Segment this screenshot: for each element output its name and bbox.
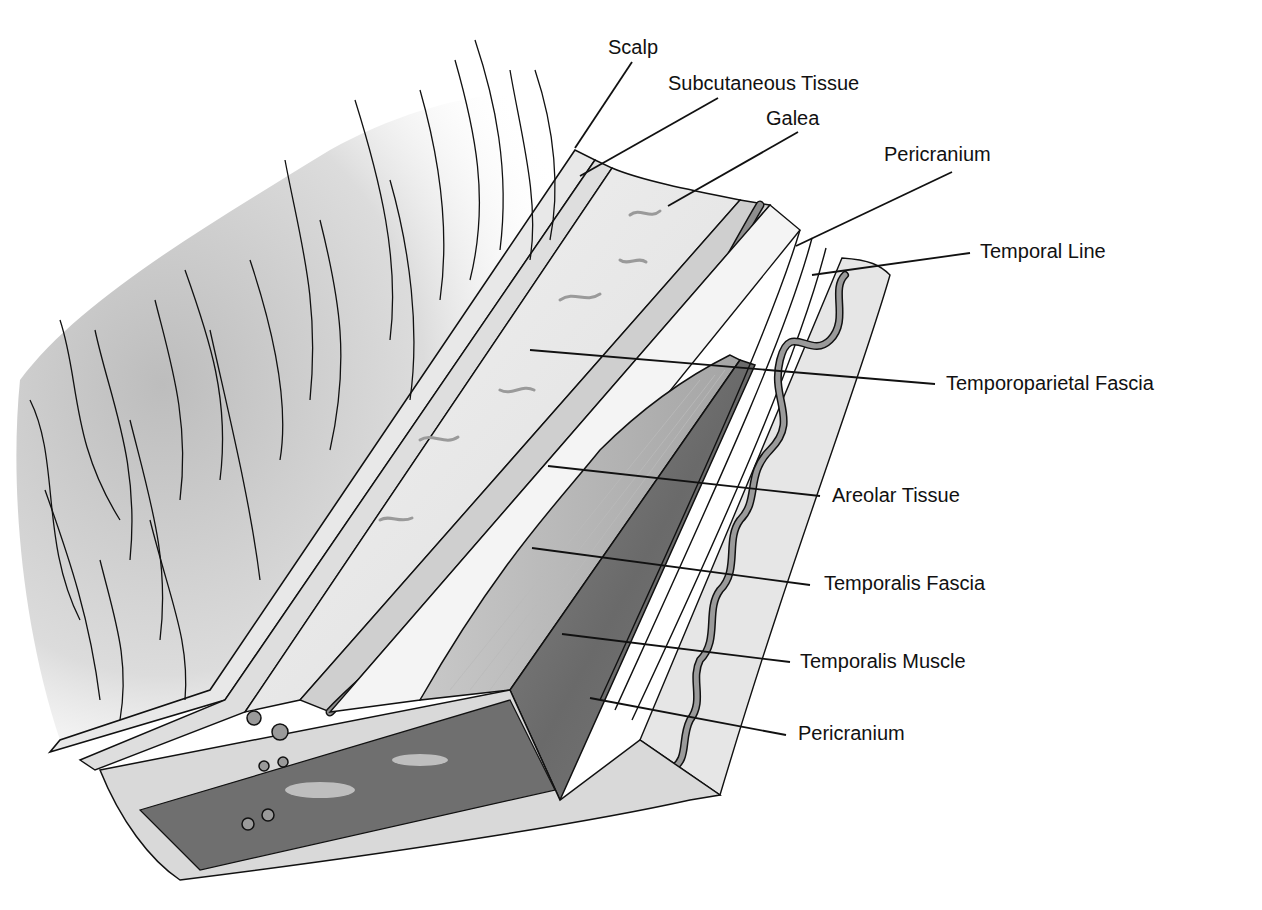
label-temporoparietal-fascia: Temporoparietal Fascia — [946, 372, 1154, 394]
anatomy-diagram: Scalp Subcutaneous Tissue Galea Pericran… — [0, 0, 1262, 910]
label-temporal-line: Temporal Line — [980, 240, 1106, 262]
label-pericranium-top: Pericranium — [884, 143, 991, 165]
label-temporalis-muscle: Temporalis Muscle — [800, 650, 966, 672]
label-galea: Galea — [766, 107, 819, 129]
label-temporalis-fascia: Temporalis Fascia — [824, 572, 985, 594]
label-subcutaneous-tissue: Subcutaneous Tissue — [668, 72, 859, 94]
label-scalp: Scalp — [608, 36, 658, 58]
label-pericranium-bottom: Pericranium — [798, 722, 905, 744]
label-areolar-tissue: Areolar Tissue — [832, 484, 960, 506]
scalp-layers-illustration — [0, 0, 1262, 910]
